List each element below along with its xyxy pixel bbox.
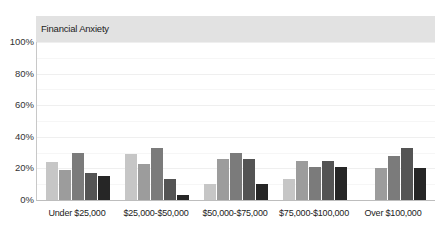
bar[interactable] [59,170,71,200]
bar[interactable] [46,162,58,200]
bar[interactable] [164,179,176,200]
y-tick-label: 80% [0,68,34,79]
x-tick-label: $75,000-$100,000 [269,208,359,218]
bar[interactable] [243,159,255,200]
plot-area [36,42,435,201]
bar[interactable] [375,168,387,200]
y-tick-label: 60% [0,99,34,110]
gridline [37,121,435,122]
x-tick-label: $50,000-$75,000 [190,208,280,218]
bar[interactable] [177,195,189,200]
gridline [37,58,435,59]
bar[interactable] [138,164,150,200]
bar[interactable] [401,148,413,200]
bar[interactable] [98,176,110,200]
x-tick-label: Under $25,000 [32,208,122,218]
gridline [37,105,435,106]
x-tick-label: Over $100,000 [348,208,438,218]
gridline [37,137,435,138]
chart-title: Financial Anxiety [41,23,109,34]
gridline [37,74,435,75]
bar[interactable] [151,148,163,200]
bar[interactable] [230,153,242,200]
bar[interactable] [296,161,308,201]
bar[interactable] [72,153,84,200]
bar[interactable] [283,179,295,200]
bar[interactable] [256,184,268,200]
bar[interactable] [414,168,426,200]
bar[interactable] [217,159,229,200]
bar[interactable] [322,161,334,201]
bar[interactable] [85,173,97,200]
x-tick-label: $25,000-$50,000 [111,208,201,218]
bar[interactable] [335,167,347,200]
bar[interactable] [204,184,216,200]
financial-anxiety-chart: Financial Anxiety 0%20%40%60%80%100% Und… [0,0,445,241]
y-tick-label: 40% [0,131,34,142]
bar[interactable] [309,167,321,200]
y-tick-label: 20% [0,162,34,173]
gridline [37,42,435,43]
chart-title-bar: Financial Anxiety [36,16,435,42]
bar[interactable] [125,154,137,200]
bar[interactable] [388,156,400,200]
gridline [37,89,435,90]
y-tick-label: 0% [0,194,34,205]
y-tick-label: 100% [0,36,34,47]
